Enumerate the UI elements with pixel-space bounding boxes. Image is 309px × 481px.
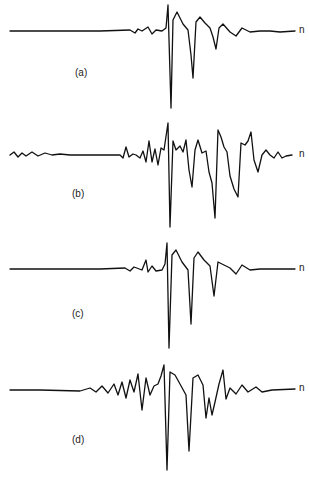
panel-label-c: (c) (72, 308, 84, 319)
axis-label-n-a: n (299, 24, 305, 35)
trace-d (10, 365, 295, 470)
panel-label-a: (a) (75, 67, 87, 78)
axis-label-n-c: n (299, 262, 305, 273)
trace-b (10, 123, 292, 227)
axis-label-n-b: n (299, 148, 305, 159)
seismogram-plot (0, 0, 309, 481)
panel-label-b: (b) (72, 188, 84, 199)
trace-c (10, 243, 295, 348)
panel-label-d: (d) (72, 434, 84, 445)
trace-a (10, 5, 295, 108)
axis-label-n-d: n (299, 382, 305, 393)
